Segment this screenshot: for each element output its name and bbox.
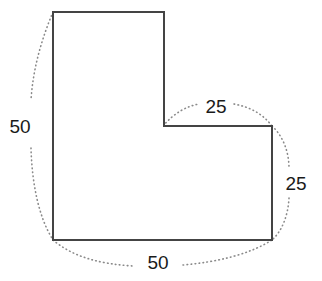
notch-top-dimension-arc-left [163,104,199,126]
geometry-diagram: 50 50 25 25 [0,0,322,281]
bottom-dimension-arc-right [183,240,272,265]
dimension-label-notch-top-width: 25 [201,96,230,117]
diagram-canvas [0,0,322,281]
bottom-dimension-arc-left [53,240,133,266]
dimension-label-right-height: 25 [281,173,310,194]
dimension-label-left-height: 50 [5,116,34,137]
notch-top-dimension-arc-right [234,104,272,126]
l-shape-polygon-outline [53,12,272,240]
left-dimension-arc-lower [31,148,53,240]
left-dimension-arc-upper [31,12,53,100]
dimension-label-bottom-width: 50 [143,252,172,273]
right-dimension-arc-upper [272,126,289,168]
right-dimension-arc-lower [272,198,289,240]
